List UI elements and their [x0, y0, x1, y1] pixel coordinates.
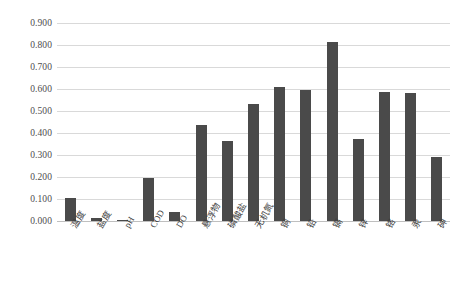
- bar: [327, 42, 338, 221]
- bar-slot: [293, 23, 319, 221]
- bar-slot: [83, 23, 109, 221]
- bar-slot: [214, 23, 240, 221]
- bar-slot: [345, 23, 371, 221]
- x-tick-slot: 镉: [319, 222, 345, 280]
- bar: [274, 87, 285, 221]
- bar-slot: [188, 23, 214, 221]
- x-tick-slot: pH: [109, 222, 135, 280]
- x-tick-slot: 盐度: [83, 222, 109, 280]
- bar-slot: [162, 23, 188, 221]
- y-tick-label: 0.300: [30, 150, 52, 160]
- bar-slot: [371, 23, 397, 221]
- x-tick-slot: 砷: [424, 222, 450, 280]
- bar: [431, 157, 442, 221]
- y-tick-label: 0.200: [30, 172, 52, 182]
- y-tick-label: 0.800: [30, 40, 52, 50]
- y-tick-label: 0.700: [30, 62, 52, 72]
- bar-slot: [57, 23, 83, 221]
- y-tick-label: 0.400: [30, 128, 52, 138]
- bar: [248, 104, 259, 221]
- bars-series: [57, 23, 450, 221]
- bar-chart: 0.0000.1000.2000.3000.4000.5000.6000.700…: [0, 0, 467, 281]
- bar: [405, 93, 416, 221]
- y-tick-label: 0.500: [30, 106, 52, 116]
- bar-slot: [319, 23, 345, 221]
- y-tick-label: 0.100: [30, 194, 52, 204]
- bar: [353, 139, 364, 222]
- bar-slot: [424, 23, 450, 221]
- bar: [222, 141, 233, 221]
- x-tick-slot: 温度: [57, 222, 83, 280]
- bar-slot: [109, 23, 135, 221]
- bar-slot: [240, 23, 266, 221]
- y-tick-label: 0.600: [30, 84, 52, 94]
- x-tick-slot: 磷酸盐: [214, 222, 240, 280]
- x-tick-slot: 铬: [371, 222, 397, 280]
- x-tick-slot: 铜: [267, 222, 293, 280]
- bar-slot: [136, 23, 162, 221]
- bar: [300, 90, 311, 221]
- bar-slot: [398, 23, 424, 221]
- x-axis: 温度盐度pHCODDO悬浮物磷酸盐无机氮铜铅镉锌铬汞砷: [57, 222, 450, 280]
- x-tick-slot: 铅: [293, 222, 319, 280]
- bar: [196, 125, 207, 221]
- bar: [379, 92, 390, 221]
- bar-slot: [267, 23, 293, 221]
- x-tick-slot: COD: [136, 222, 162, 280]
- x-tick-slot: 锌: [345, 222, 371, 280]
- x-tick-slot: 汞: [398, 222, 424, 280]
- plot-area: [57, 23, 450, 221]
- y-tick-label: 0.000: [30, 216, 52, 226]
- x-tick-slot: 无机氮: [240, 222, 266, 280]
- y-tick-label: 0.900: [30, 18, 52, 28]
- x-tick-slot: 悬浮物: [188, 222, 214, 280]
- x-tick-slot: DO: [162, 222, 188, 280]
- y-axis: 0.0000.1000.2000.3000.4000.5000.6000.700…: [0, 23, 52, 221]
